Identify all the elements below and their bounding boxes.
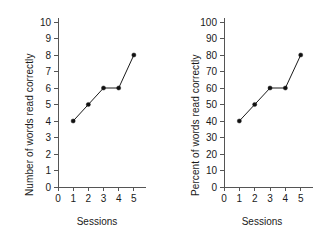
x-tick-label: 5: [298, 193, 304, 204]
x-tick-label: 0: [55, 193, 61, 204]
data-point-marker[interactable]: [299, 53, 303, 57]
x-tick-label: 4: [283, 193, 289, 204]
data-point-marker[interactable]: [117, 86, 121, 90]
y-tick-label: 10: [40, 17, 52, 28]
y-tick-label: 50: [206, 99, 218, 110]
x-axis-title-right: Sessions: [179, 216, 333, 227]
y-tick-label: 30: [206, 132, 218, 143]
y-tick-label: 70: [206, 66, 218, 77]
x-axis-title-left: Sessions: [14, 216, 180, 227]
y-tick-label: 0: [45, 182, 51, 193]
chart-panel-number-of-words: 012345678910012345 Number of words read …: [0, 0, 166, 241]
y-tick-label: 60: [206, 83, 218, 94]
y-tick-label: 3: [45, 132, 51, 143]
y-tick-label: 4: [45, 116, 51, 127]
x-tick-label: 2: [86, 193, 92, 204]
data-point-marker[interactable]: [132, 53, 136, 57]
data-point-marker[interactable]: [237, 119, 241, 123]
x-tick-label: 3: [101, 193, 107, 204]
x-tick-label: 1: [70, 193, 76, 204]
y-axis-title-right: Percent of words read correctly: [190, 55, 201, 197]
x-tick-label: 1: [237, 193, 243, 204]
data-point-marker[interactable]: [71, 119, 75, 123]
data-point-marker[interactable]: [268, 86, 272, 90]
y-tick-label: 80: [206, 50, 218, 61]
chart-panel-percent-of-words: 0102030405060708090100012345 Percent of …: [167, 0, 333, 241]
y-tick-label: 6: [45, 83, 51, 94]
y-tick-label: 10: [206, 165, 218, 176]
y-tick-label: 100: [200, 17, 217, 28]
x-tick-label: 5: [131, 193, 137, 204]
y-tick-label: 7: [45, 66, 51, 77]
x-tick-label: 0: [221, 193, 227, 204]
y-tick-label: 8: [45, 50, 51, 61]
data-point-marker[interactable]: [253, 102, 257, 106]
x-tick-label: 3: [267, 193, 273, 204]
y-axis-title-left: Number of words read correctly: [24, 54, 35, 197]
data-point-marker[interactable]: [86, 102, 90, 106]
x-tick-label: 4: [116, 193, 122, 204]
data-point-marker[interactable]: [101, 86, 105, 90]
y-tick-label: 20: [206, 149, 218, 160]
y-tick-label: 90: [206, 33, 218, 44]
figure-two-line-charts: 012345678910012345 Number of words read …: [0, 0, 333, 241]
y-tick-label: 1: [45, 165, 51, 176]
y-tick-label: 5: [45, 99, 51, 110]
y-tick-label: 40: [206, 116, 218, 127]
data-point-marker[interactable]: [283, 86, 287, 90]
y-tick-label: 2: [45, 149, 51, 160]
x-tick-label: 2: [252, 193, 258, 204]
y-tick-label: 9: [45, 33, 51, 44]
y-tick-label: 0: [211, 182, 217, 193]
